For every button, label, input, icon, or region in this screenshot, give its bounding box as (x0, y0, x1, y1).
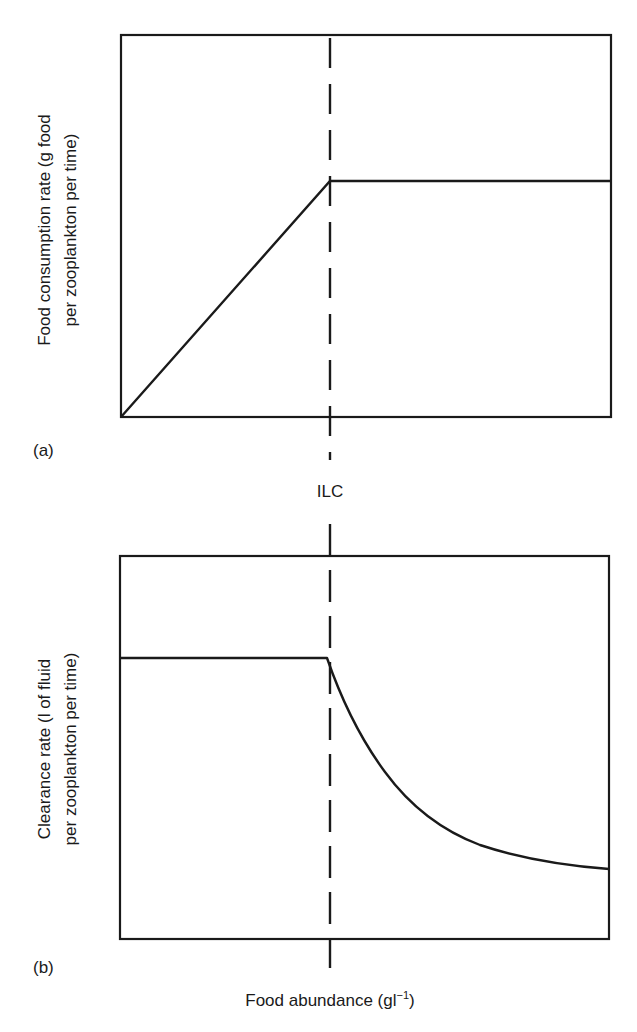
consumption-rate-line (121, 181, 611, 417)
ilc-label: ILC (317, 482, 343, 501)
x-axis-label-close: ) (409, 991, 415, 1010)
panel-a: Food consumption rate (g food per zoopla… (33, 35, 611, 460)
y-axis-label-a-line1: Food consumption rate (g food (35, 114, 54, 346)
y-axis-label-a: Food consumption rate (g food (35, 114, 54, 346)
panel-label-b: (b) (33, 958, 54, 977)
clearance-rate-line (120, 658, 609, 869)
y-axis-label-b-line1: Clearance rate (l of fluid (35, 659, 54, 839)
x-axis-label: Food abundance (gl−1) (245, 989, 414, 1010)
panel-a-frame (121, 35, 611, 417)
panel-b-frame (120, 556, 609, 939)
panel-label-a: (a) (33, 441, 54, 460)
y-axis-label-a-line2: per zooplankton per time) (61, 134, 80, 327)
figure: Food consumption rate (g food per zoopla… (0, 0, 637, 1032)
y-axis-label-a-2: per zooplankton per time) (61, 134, 80, 327)
panel-b: Clearance rate (l of fluid per zooplankt… (33, 556, 609, 977)
y-axis-label-b: Clearance rate (l of fluid (35, 659, 54, 839)
y-axis-label-b-2: per zooplankton per time) (61, 653, 80, 846)
ilc-marker: ILC (317, 38, 343, 968)
y-axis-label-b-line2: per zooplankton per time) (61, 653, 80, 846)
x-axis-label-superscript: −1 (397, 989, 410, 1001)
x-axis-label-main: Food abundance (gl (245, 991, 396, 1010)
